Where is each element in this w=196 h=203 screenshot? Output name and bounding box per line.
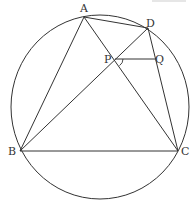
circumcircle <box>11 15 189 199</box>
segment-AB <box>20 17 84 151</box>
label-P: P <box>104 53 112 66</box>
segments <box>20 17 178 151</box>
label-B: B <box>8 145 16 158</box>
diagram-svg: A B C D P Q <box>0 0 196 203</box>
label-D: D <box>146 17 155 30</box>
segment-DC <box>148 28 178 151</box>
geometry-diagram: A B C D P Q <box>0 0 196 203</box>
label-A: A <box>79 2 89 15</box>
segment-AD <box>84 17 148 28</box>
label-C: C <box>181 145 189 158</box>
angle-mark-at-P <box>120 59 123 66</box>
label-Q: Q <box>155 53 164 66</box>
segment-AC <box>84 17 178 151</box>
segment-BD <box>20 28 148 151</box>
